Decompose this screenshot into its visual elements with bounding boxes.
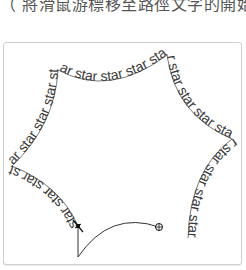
- path-end-marker-icon[interactable]: [156, 224, 163, 231]
- path-text-content: star star star star star star star star …: [0, 0, 241, 238]
- path-tail-segment: [78, 222, 159, 257]
- path-text[interactable]: star star star star star star star star …: [0, 0, 241, 238]
- drawing-canvas[interactable]: star star star star star star star star …: [0, 0, 246, 270]
